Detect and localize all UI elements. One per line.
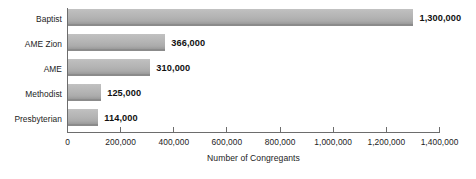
x-tick-400000 [173, 127, 174, 133]
bar-presbyterian [68, 109, 98, 126]
x-tick-label-1000000: 1,000,000 [314, 137, 352, 147]
x-tick-label-1400000: 1,400,000 [421, 137, 459, 147]
x-axis-title: Number of Congregants [67, 153, 440, 164]
x-tick-label-0: 0 [65, 137, 70, 147]
x-tick-600000 [226, 127, 227, 133]
bar-value-ame: 310,000 [156, 63, 190, 73]
x-tick-label-1200000: 1,200,000 [368, 137, 406, 147]
x-tick-label-600000: 600,000 [212, 137, 243, 147]
bar-chart: Baptist AME Zion AME Methodist Presbyter… [0, 0, 476, 179]
x-tick-1200000 [386, 127, 387, 133]
bar-ame [68, 59, 150, 76]
bar-value-presbyterian: 114,000 [104, 113, 137, 123]
category-label-ame-zion: AME Zion [0, 39, 62, 49]
category-label-presbyterian: Presbyterian [0, 114, 62, 124]
category-label-ame: AME [0, 64, 62, 74]
x-tick-label-800000: 800,000 [265, 137, 296, 147]
bar-value-baptist: 1,300,000 [419, 13, 461, 23]
bar-value-methodist: 125,000 [107, 88, 141, 98]
bar-methodist [68, 84, 101, 101]
category-label-methodist: Methodist [0, 89, 62, 99]
category-label-baptist: Baptist [0, 14, 62, 24]
bar-value-ame-zion: 366,000 [171, 38, 205, 48]
y-axis-line [67, 8, 68, 133]
bar-ame-zion [68, 34, 165, 51]
x-tick-1000000 [333, 127, 334, 133]
plot-area: 1,300,000 366,000 310,000 125,000 114,00… [68, 0, 440, 132]
x-axis-line [67, 132, 440, 133]
bar-baptist [68, 9, 413, 26]
x-tick-200000 [120, 127, 121, 133]
x-tick-label-400000: 400,000 [158, 137, 189, 147]
x-tick-1400000 [439, 127, 440, 133]
x-tick-800000 [280, 127, 281, 133]
x-tick-0 [67, 127, 68, 133]
x-tick-label-200000: 200,000 [105, 137, 136, 147]
category-axis-labels: Baptist AME Zion AME Methodist Presbyter… [0, 0, 62, 132]
